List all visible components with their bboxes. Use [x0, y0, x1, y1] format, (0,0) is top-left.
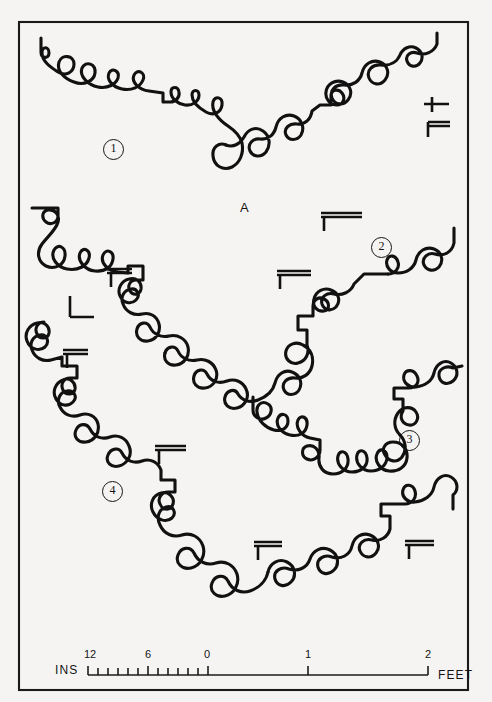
suture-curve-1-1	[226, 33, 437, 156]
tick-1c	[321, 213, 362, 231]
specimen-label-4: 4	[102, 481, 123, 502]
tick-2b	[277, 271, 311, 289]
scale-tick-label-6in: 6	[145, 648, 151, 660]
tick-1b	[428, 122, 450, 137]
plate-drawing	[0, 0, 492, 702]
plate-frame	[19, 22, 468, 690]
scale-tick-label-0: 0	[204, 648, 210, 660]
tick-4b	[155, 446, 186, 464]
scale-unit-inches: INS	[55, 663, 78, 677]
scale-tick-label-12in: 12	[84, 648, 96, 660]
scale-tick-label-1ft: 1	[305, 648, 311, 660]
specimen-label-3: 3	[399, 430, 420, 451]
tick-3a	[70, 296, 94, 317]
suture-curve-1-0	[41, 38, 243, 168]
suture-curve-2-2	[387, 228, 454, 274]
figure-plate: 1 2 3 4 A INS FEET 12 6 0 1 2	[0, 0, 492, 702]
scale-tick-label-2ft: 2	[425, 648, 431, 660]
specimen-label-1: 1	[103, 139, 124, 160]
suture-curve-3-1	[394, 362, 462, 435]
suture-lines-layer	[26, 33, 462, 596]
specimen-label-2: 2	[371, 237, 392, 258]
suture-curve-4-1	[268, 476, 457, 586]
point-label-a: A	[240, 200, 249, 215]
suture-curve-3-0	[253, 397, 407, 474]
tick-4c	[254, 542, 282, 560]
tick-3b	[405, 541, 434, 559]
suture-curve-2-1	[165, 274, 388, 408]
suture-curve-4-0	[26, 322, 268, 596]
scale-bar-graphics	[88, 666, 428, 675]
tick-1a	[424, 97, 449, 112]
scale-unit-feet: FEET	[438, 668, 473, 682]
